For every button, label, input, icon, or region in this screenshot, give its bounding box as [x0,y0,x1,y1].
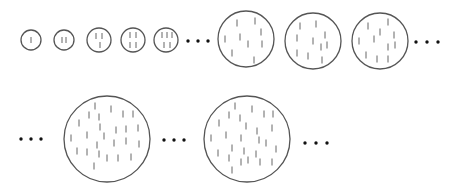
tick-circle [121,28,145,52]
tick-circle [54,30,74,50]
ellipsis-dot [196,39,199,42]
ellipsis-dot [39,137,42,140]
circle-outline [218,11,274,67]
ellipsis-dot [182,138,185,141]
ellipsis-dot [172,138,175,141]
circle-outline [64,96,150,182]
circle-outline [121,28,145,52]
diagram-canvas [0,0,458,192]
ellipsis-dot [314,141,317,144]
tick-circle [218,11,274,67]
ellipsis-dot [436,40,439,43]
circle-sequence-diagram [0,0,458,192]
tick-circle [204,96,290,182]
ellipsis-dot [425,40,428,43]
tick-circle [64,96,150,182]
tick-circle [21,30,41,50]
ellipsis-dot [325,141,328,144]
ellipsis-dot [162,138,165,141]
ellipsis-icon [303,141,328,144]
ellipsis-dot [414,40,417,43]
ellipsis-icon [186,39,209,42]
ellipsis-dot [186,39,189,42]
ellipsis-icon [162,138,185,141]
ellipsis-dot [303,141,306,144]
ellipsis-dot [29,137,32,140]
ellipsis-dot [206,39,209,42]
circle-outline [154,28,178,52]
tick-circle [154,28,178,52]
circle-outline [54,30,74,50]
ellipsis-dot [19,137,22,140]
tick-circle [87,28,111,52]
circle-outline [87,28,111,52]
circle-outline [352,13,408,69]
ellipsis-icon [19,137,42,140]
circle-outline [204,96,290,182]
tick-circle [352,13,408,69]
diagram-row-2 [19,96,328,182]
diagram-row-1 [21,11,440,69]
ellipsis-icon [414,40,439,43]
tick-circle [285,13,341,69]
